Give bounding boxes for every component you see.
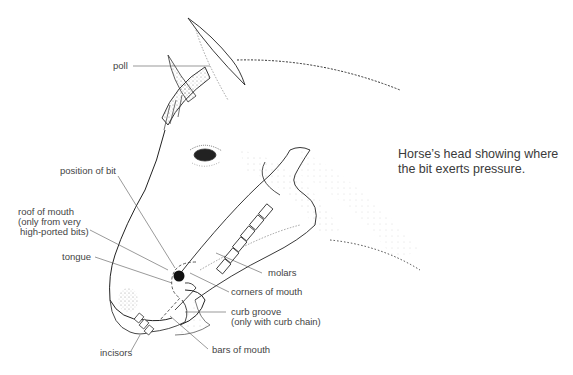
incisors-drawing [134,313,154,335]
label-roof-of-mouth: roof of mouth (only from very high-porte… [18,207,89,237]
caption-line2: the bit exerts pressure. [398,162,558,177]
label-tongue: tongue [62,252,91,262]
nostril [118,288,138,312]
neck-crest [237,60,400,90]
label-molars: molars [268,268,297,278]
label-curb-groove: curb groove (only with curb chain) [231,307,321,327]
label-incisors: incisors [100,348,132,358]
figure-caption: Horse’s head showing where the bit exert… [398,147,558,177]
caption-line1: Horse’s head showing where [398,147,558,162]
eye [194,149,216,161]
label-bars-of-mouth: bars of mouth [212,345,270,355]
molar-row [216,204,272,274]
label-position-of-bit: position of bit [60,166,116,176]
face-profile [110,130,172,321]
label-curb-groove-line2: (only with curb chain) [231,317,321,327]
bit-position-marker [174,271,185,282]
label-corners-of-mouth: corners of mouth [231,287,302,297]
forelock [162,67,210,125]
label-roof-of-mouth-line3: high-ported bits) [18,227,89,237]
label-poll: poll [113,61,128,71]
